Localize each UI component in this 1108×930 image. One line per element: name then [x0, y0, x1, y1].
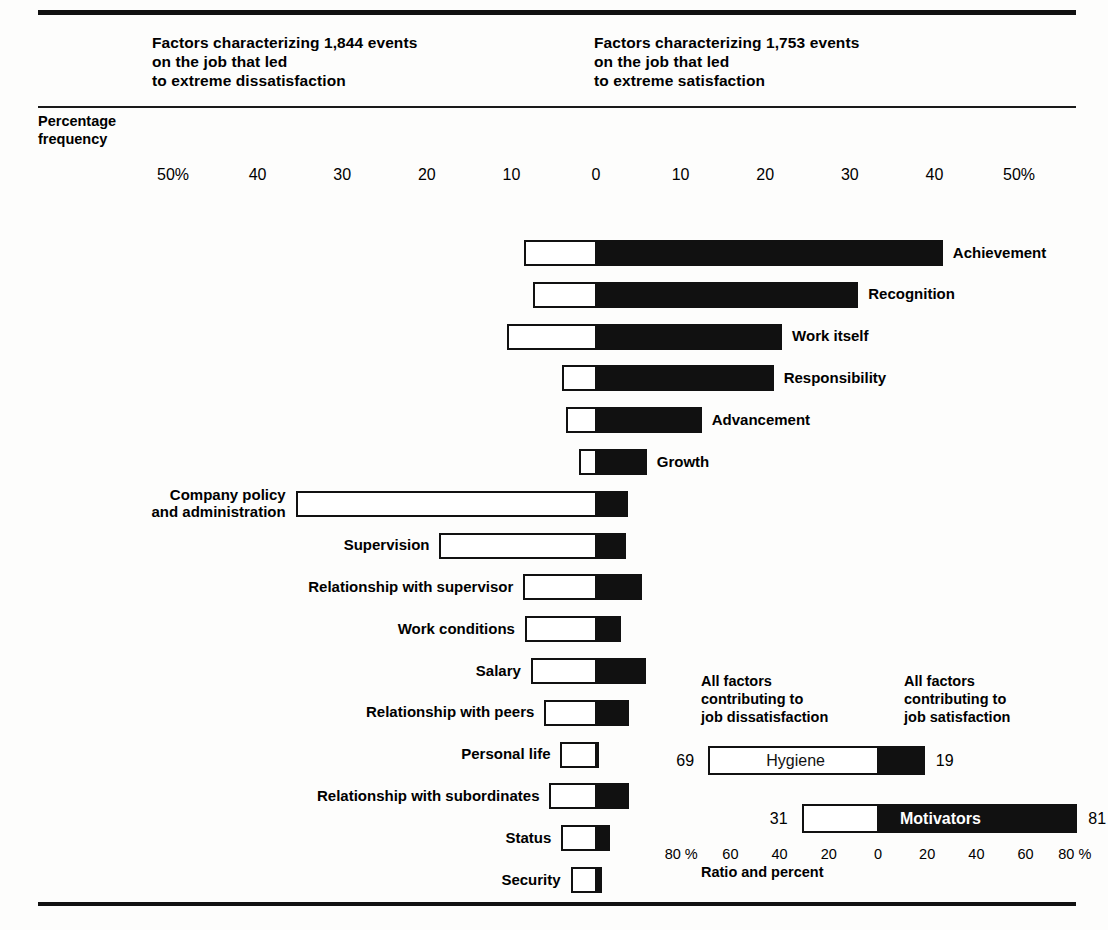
bar-row: Achievement [0, 240, 1108, 266]
bar-segment-satisfaction [596, 240, 943, 266]
bar-label: Company policy and administration [151, 486, 285, 520]
bar-row: Company policy and administration [0, 491, 1108, 517]
bar-segment-satisfaction [596, 658, 646, 684]
top-rule [38, 10, 1076, 15]
legend-bar-name: Hygiene [766, 746, 825, 775]
bar-segment-satisfaction [596, 867, 602, 893]
chart-page: Factors characterizing 1,844 events on t… [0, 0, 1108, 930]
bar-segment-dissatisfaction [560, 742, 597, 768]
bar-label: Relationship with supervisor [308, 578, 513, 595]
bar-segment-dissatisfaction [439, 533, 597, 559]
bar-label: Personal life [461, 745, 550, 762]
legend-axis-tick: 60 [1018, 846, 1034, 862]
bar-label: Advancement [712, 411, 810, 428]
legend-axis-label: Ratio and percent [701, 864, 823, 880]
bar-label: Work conditions [398, 620, 515, 637]
bar-segment-dissatisfaction [571, 867, 597, 893]
x-axis-tick: 30 [333, 166, 351, 184]
bar-segment-dissatisfaction [524, 240, 597, 266]
bar-segment-dissatisfaction [531, 658, 597, 684]
legend-segment-satisfaction [878, 746, 925, 775]
bottom-rule [38, 902, 1076, 906]
legend-axis-tick: 40 [968, 846, 984, 862]
bar-row: Advancement [0, 407, 1108, 433]
bar-segment-dissatisfaction [507, 324, 597, 350]
summary-legend: All factors contributing to job dissatis… [697, 672, 1087, 887]
bar-label: Salary [476, 662, 521, 679]
bar-segment-dissatisfaction [525, 616, 597, 642]
bar-label: Security [501, 871, 560, 888]
bar-row: Responsibility [0, 365, 1108, 391]
legend-axis-tick: 60 [722, 846, 738, 862]
legend-row: Motivators3181 [697, 804, 1087, 833]
bar-segment-dissatisfaction [562, 365, 597, 391]
legend-row: Hygiene6919 [697, 746, 1087, 775]
bar-segment-satisfaction [596, 616, 621, 642]
bar-label: Status [505, 829, 551, 846]
bar-segment-dissatisfaction [566, 407, 597, 433]
x-axis-tick: 20 [756, 166, 774, 184]
legend-value-right: 19 [936, 746, 954, 775]
bar-row: Recognition [0, 282, 1108, 308]
bar-label: Responsibility [784, 369, 887, 386]
legend-axis-tick: 80 % [665, 846, 698, 862]
x-axis-tick: 0 [592, 166, 601, 184]
x-axis-tick: 30 [841, 166, 859, 184]
bar-segment-satisfaction [596, 324, 782, 350]
bar-label: Relationship with subordinates [317, 787, 540, 804]
bar-segment-dissatisfaction [561, 825, 597, 851]
bar-label: Supervision [344, 536, 430, 553]
bar-segment-satisfaction [596, 574, 642, 600]
bar-row: Work itself [0, 324, 1108, 350]
bar-segment-dissatisfaction [544, 700, 597, 726]
header-rule [38, 106, 1076, 108]
legend-axis-tick: 80 % [1058, 846, 1091, 862]
bar-segment-satisfaction [596, 825, 610, 851]
bar-label: Growth [657, 453, 710, 470]
legend-value-right: 81 [1088, 804, 1106, 833]
column-header-satisfaction: Factors characterizing 1,753 events on t… [594, 33, 859, 90]
x-axis-tick: 10 [502, 166, 520, 184]
bar-segment-dissatisfaction [549, 783, 597, 809]
bar-row: Relationship with supervisor [0, 574, 1108, 600]
bar-segment-dissatisfaction [523, 574, 597, 600]
legend-header-satisfaction: All factors contributing to job satisfac… [904, 672, 1010, 726]
bar-segment-satisfaction [596, 449, 647, 475]
x-axis-tick: 40 [925, 166, 943, 184]
bar-segment-satisfaction [596, 491, 628, 517]
x-axis-tick: 40 [249, 166, 267, 184]
axis-title-percentage-frequency: Percentage frequency [38, 112, 116, 148]
bar-row: Work conditions [0, 616, 1108, 642]
x-axis-tick: 50% [157, 166, 189, 184]
bar-segment-satisfaction [596, 783, 629, 809]
legend-axis-tick: 0 [874, 846, 882, 862]
bar-row: Growth [0, 449, 1108, 475]
bar-segment-satisfaction [596, 365, 774, 391]
bar-label: Work itself [792, 327, 868, 344]
bar-label: Relationship with peers [366, 703, 534, 720]
bar-segment-dissatisfaction [533, 282, 597, 308]
bar-segment-satisfaction [596, 742, 599, 768]
bar-row: Supervision [0, 533, 1108, 559]
legend-axis-tick: 20 [821, 846, 837, 862]
legend-value-left: 69 [676, 746, 694, 775]
bar-segment-dissatisfaction [296, 491, 597, 517]
bar-segment-satisfaction [596, 407, 702, 433]
column-header-dissatisfaction: Factors characterizing 1,844 events on t… [152, 33, 417, 90]
legend-axis-tick: 20 [919, 846, 935, 862]
legend-axis-tick: 40 [772, 846, 788, 862]
bar-label: Achievement [953, 244, 1046, 261]
x-axis-tick: 50% [1003, 166, 1035, 184]
legend-segment-dissatisfaction [802, 804, 879, 833]
bar-segment-satisfaction [596, 282, 858, 308]
bar-segment-dissatisfaction [579, 449, 597, 475]
x-axis-tick: 20 [418, 166, 436, 184]
x-axis-tick: 10 [672, 166, 690, 184]
bar-label: Recognition [868, 285, 955, 302]
bar-segment-satisfaction [596, 700, 629, 726]
legend-bar-name: Motivators [900, 804, 981, 833]
legend-header-dissatisfaction: All factors contributing to job dissatis… [701, 672, 828, 726]
legend-value-left: 31 [770, 804, 788, 833]
bar-segment-satisfaction [596, 533, 626, 559]
